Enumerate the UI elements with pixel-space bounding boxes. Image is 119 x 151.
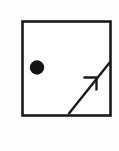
- figure-canvas: [0, 0, 119, 151]
- diagram-svg: [0, 0, 119, 151]
- filled-circle-marker: [30, 60, 44, 74]
